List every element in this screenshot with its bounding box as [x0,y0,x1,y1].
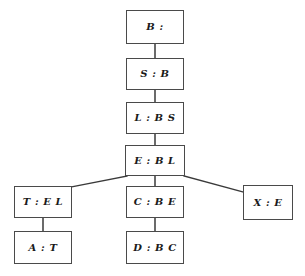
node-label-E: E : B L [134,156,175,166]
node-S[interactable]: S : B [126,58,184,90]
node-label-A: A : T [29,243,58,253]
diagram-canvas: B : S : B L : B S E : B L T : E L C : B … [0,0,305,276]
node-A[interactable]: A : T [14,231,72,264]
node-label-S: S : B [140,69,169,79]
edge-E-to-T [71,176,127,187]
node-label-X: X : E [253,198,282,208]
node-C[interactable]: C : B E [126,186,184,218]
node-X[interactable]: X : E [243,185,293,220]
node-E[interactable]: E : B L [125,145,185,176]
node-label-B: B : [146,22,163,32]
node-label-C: C : B E [134,197,176,207]
edge-E-to-X [184,176,243,192]
node-T[interactable]: T : E L [14,186,72,218]
node-B[interactable]: B : [126,10,184,44]
node-D[interactable]: D : B C [126,231,184,264]
node-label-D: D : B C [133,243,176,253]
node-L[interactable]: L : B S [126,102,184,134]
node-label-T: T : E L [23,197,63,207]
node-label-L: L : B S [134,113,175,123]
